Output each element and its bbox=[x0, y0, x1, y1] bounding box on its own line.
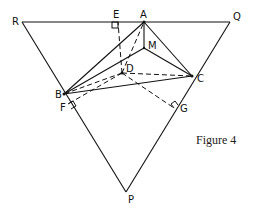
right-angle-E-icon bbox=[112, 22, 118, 28]
label-R: R bbox=[12, 16, 19, 27]
label-M: M bbox=[148, 40, 157, 51]
geometry-figure: R Q P E A M D C B F G Figure 4 bbox=[0, 0, 257, 215]
label-E: E bbox=[113, 9, 119, 20]
segment-MC bbox=[144, 48, 192, 76]
label-C: C bbox=[197, 73, 204, 84]
vertex-D bbox=[121, 72, 124, 75]
label-G: G bbox=[180, 103, 188, 114]
vertex-B bbox=[63, 93, 66, 96]
segment-DE bbox=[118, 22, 122, 73]
segment-DF bbox=[68, 73, 122, 104]
segment-DB bbox=[64, 73, 122, 94]
segment-BC bbox=[64, 76, 192, 94]
label-F: F bbox=[60, 102, 66, 113]
figure-caption: Figure 4 bbox=[196, 133, 236, 147]
label-D: D bbox=[126, 63, 134, 74]
segment-DG bbox=[122, 73, 174, 108]
vertex-M bbox=[143, 47, 145, 49]
label-P: P bbox=[128, 194, 134, 205]
vertex-A bbox=[143, 21, 146, 24]
vertex-C bbox=[191, 75, 194, 78]
label-Q: Q bbox=[233, 11, 241, 22]
segment-QP bbox=[126, 22, 230, 192]
label-B: B bbox=[55, 89, 62, 100]
label-A: A bbox=[140, 9, 147, 20]
